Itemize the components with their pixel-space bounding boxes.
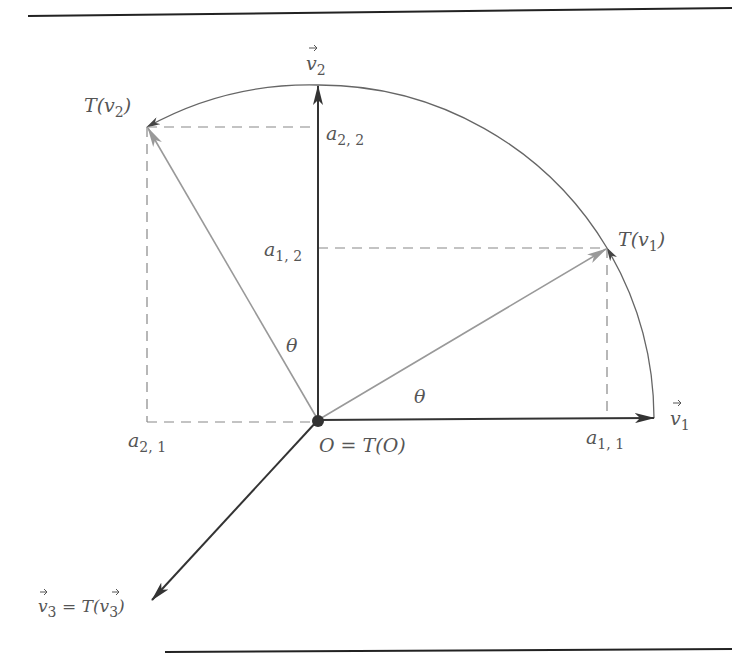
svg-text:v3 = T(v3): v3 = T(v3) (38, 596, 125, 620)
T-v2-vector (148, 128, 318, 420)
projection-lines (147, 127, 607, 422)
svg-text:v2: v2 (306, 52, 326, 78)
label-v1: v1 (670, 400, 690, 433)
top-rule (28, 8, 732, 16)
label-a11: a1, 1 (586, 426, 624, 452)
T-v1-vector (318, 249, 606, 420)
label-v2: v2 (306, 45, 326, 78)
v1-vector (318, 418, 654, 420)
label-origin: O = T(O) (319, 434, 406, 456)
label-T-v1: T(v1) (618, 228, 665, 254)
origin-point (312, 415, 324, 427)
label-a21: a2, 1 (128, 429, 166, 455)
bottom-rule (165, 649, 732, 652)
label-v3: v3 = T(v3) (38, 589, 125, 620)
rotation-arc-top (147, 85, 607, 248)
label-theta-right: θ (414, 385, 426, 407)
svg-text:v1: v1 (670, 407, 690, 433)
label-theta-left: θ (286, 334, 298, 356)
rotation-diagram: v2 v1 T(v2) T(v1) a2, 2 a1, 2 a2, 1 a1, … (0, 0, 732, 662)
v3-vector (152, 420, 318, 600)
rotation-arc-right (607, 248, 654, 418)
label-a12: a1, 2 (264, 238, 302, 264)
label-T-v2: T(v2) (84, 94, 131, 120)
label-a22: a2, 2 (326, 122, 364, 148)
